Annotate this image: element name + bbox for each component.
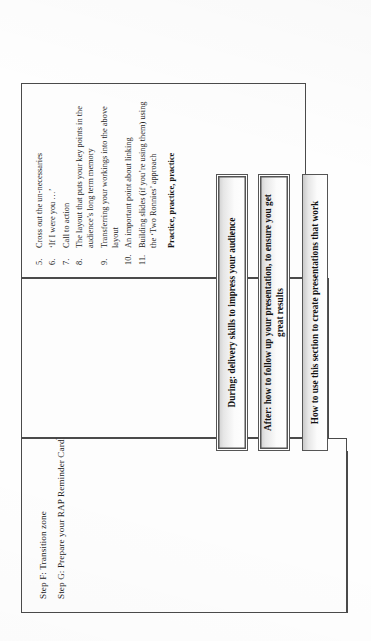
list-item: 5. Cross out the un-necessaries (34, 96, 45, 265)
list-item: 9. Transferring your workings into the a… (99, 96, 121, 265)
connector-steps-bottom (347, 451, 348, 613)
steps-box: Step F: Transition zone Step G: Prepare … (21, 438, 347, 613)
banner-during[interactable]: During: delivery skills to impress your … (216, 174, 248, 451)
step-line-g: Step G: Prepare your RAP Reminder CardTM (51, 452, 69, 599)
list-item-number: 10. (123, 248, 134, 265)
banner-how-to-use-label: How to use this section to create presen… (309, 201, 321, 425)
banner-during-label: During: delivery skills to impress your … (226, 218, 238, 408)
list-item-number: 6. (47, 248, 58, 265)
list-item: 8. The layout that puts your key points … (74, 96, 96, 265)
practice-footer: Practice, practice, practice (166, 96, 177, 248)
list-item-text: Transferring your workings into the abov… (99, 96, 121, 248)
banner-how-to-use[interactable]: How to use this section to create presen… (302, 174, 328, 451)
banner-after[interactable]: After: how to follow up your presentatio… (258, 174, 290, 451)
step-line-g-text: Step G: Prepare your RAP Reminder Card (56, 439, 66, 599)
page-rotator: Step F: Transition zone Step G: Prepare … (0, 0, 371, 641)
list-item-text: An important point about linking (123, 96, 134, 248)
list-item-text: Cross out the un-necessaries (34, 96, 45, 248)
list-item-number: 9. (99, 248, 121, 265)
numbered-list: 5. Cross out the un-necessaries 6. ‘If I… (34, 96, 159, 265)
list-item: 7. Call to action (61, 96, 72, 265)
list-item-number: 5. (34, 248, 45, 265)
list-item-text: Building slides (if you’re using them) u… (137, 96, 159, 248)
list-item-text: Call to action (61, 96, 72, 248)
list-item-number: 11. (137, 248, 159, 265)
scanned-page: Step F: Transition zone Step G: Prepare … (0, 0, 371, 641)
list-item-number: 8. (74, 248, 96, 265)
banner-after-label: After: how to follow up your presentatio… (262, 187, 286, 438)
list-item-number: 7. (61, 248, 72, 265)
list-item: 6. ‘If I were you …’ (47, 96, 58, 265)
list-item: 10. An important point about linking (123, 96, 134, 265)
list-item-text: The layout that puts your key points in … (74, 96, 96, 248)
list-item-text: ‘If I were you …’ (47, 96, 58, 248)
list-item: 11. Building slides (if you’re using the… (137, 96, 159, 265)
step-line-f: Step F: Transition zone (36, 452, 51, 599)
